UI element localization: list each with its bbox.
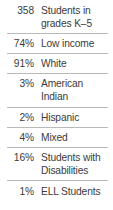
table-row: 1% ELL Students bbox=[0, 181, 113, 201]
table-row: 91% White bbox=[0, 54, 113, 74]
stat-label: White bbox=[41, 57, 103, 70]
school-statistics-table: 358 Students in grades K–5 74% Low incom… bbox=[0, 0, 113, 210]
stat-label: Students in grades K–5 bbox=[41, 4, 103, 30]
table-row: 3% American Indian bbox=[0, 74, 113, 108]
stat-label: Hispanic bbox=[41, 111, 103, 124]
stat-label: Low income bbox=[41, 37, 103, 50]
table-row: 358 Students in grades K–5 bbox=[0, 0, 113, 34]
stat-value: 4% bbox=[8, 131, 34, 144]
stat-value: 2% bbox=[8, 111, 34, 124]
stat-label: Students with Disabilities bbox=[41, 151, 103, 177]
stat-value: 74% bbox=[8, 37, 34, 50]
table-row: 16% Students with Disabilities bbox=[0, 148, 113, 181]
table-row: 2% Hispanic bbox=[0, 108, 113, 128]
stat-label: ELL Students bbox=[41, 185, 103, 198]
stat-value: 358 bbox=[8, 4, 34, 17]
stat-value: 1% bbox=[8, 185, 34, 198]
stat-value: 3% bbox=[8, 77, 34, 90]
stat-label: American Indian bbox=[41, 77, 103, 103]
table-row: 4% Mixed bbox=[0, 128, 113, 148]
table-row: 74% Low income bbox=[0, 34, 113, 54]
stat-value: 16% bbox=[8, 151, 34, 164]
stat-value: 91% bbox=[8, 57, 34, 70]
stat-label: Mixed bbox=[41, 131, 103, 144]
